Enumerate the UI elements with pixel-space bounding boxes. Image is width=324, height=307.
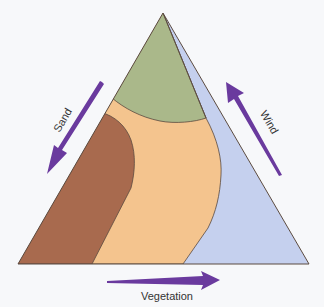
ternary-diagram: Sand Wind Vegetation	[0, 0, 324, 307]
triangle-regions	[0, 0, 309, 264]
wind-label: Wind	[258, 108, 281, 136]
top-region	[0, 0, 206, 122]
vegetation-label: Vegetation	[141, 290, 193, 302]
vegetation-arrow-icon	[107, 271, 220, 290]
